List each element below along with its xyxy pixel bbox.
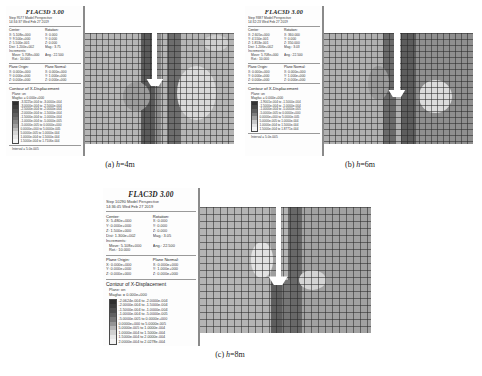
increments-block: Move: 5.708e+000 Rot.: 10.000 Ang.: 22.5… xyxy=(9,53,81,61)
legend-label-9: 2.0000e-004 to 2.0278e-004 xyxy=(119,340,168,345)
increments-block: Move: 5.108e+000 Rot.: 10.000 Ang.: 22.5… xyxy=(106,244,196,254)
plane-normal-z: Z: 0.000e+000 xyxy=(45,78,81,82)
divider xyxy=(9,63,81,64)
plane-block: Plane Origin: X: 0.000e+000 Y: 0.000e+00… xyxy=(248,65,320,82)
caption-label: (c) xyxy=(215,350,224,359)
caption-value: =8m xyxy=(230,350,245,359)
caption-value: =4m xyxy=(120,160,135,169)
plane-normal-z: Z: 0.000e+000 xyxy=(284,78,320,82)
contour-legend-c: -2.0624e-004 to -2.0000e-004-2.0000e-004… xyxy=(106,299,196,345)
excavation-slot xyxy=(276,207,282,280)
divider xyxy=(9,26,81,27)
mag-value: Mag.: 3.03 xyxy=(284,45,320,49)
flac3d-brand: FLAC3D 3.00 xyxy=(106,190,196,200)
excavation-slot xyxy=(394,33,399,93)
plane-block: Plane Origin: X: 0.000e+000 Y: 0.000e+00… xyxy=(9,65,81,82)
rot-value: Rot.: 10.000 xyxy=(248,57,284,61)
legend-swatches xyxy=(109,299,117,345)
caption-panel-a: (a) h=4m xyxy=(40,160,200,169)
legend-swatch-9 xyxy=(110,339,116,343)
divider xyxy=(106,279,196,280)
legend-interval: Interval = 5.0e-005 xyxy=(248,133,320,139)
center-rotation-block: Center: X: 2.605e+000 Y: 4.550e-001 Z: 1… xyxy=(248,28,320,49)
plot-area-b xyxy=(323,6,473,156)
plot-area-a xyxy=(84,6,234,156)
timestamp-line: 14:36:45 Wed Feb 27 2019 xyxy=(106,205,196,210)
plane-origin-z: Z: 0.000e+000 xyxy=(106,272,153,277)
mag-value: Mag.: 3.05 xyxy=(153,234,196,239)
divider xyxy=(9,83,81,84)
legend-swatch-7 xyxy=(252,127,257,131)
caption-label: (b) xyxy=(345,160,354,169)
ang-value: Ang.: 22.500 xyxy=(284,53,320,57)
info-sidebar-b: FLAC3D 3.00 Step 9387 Model Perspective … xyxy=(245,6,323,156)
caption-value: =6m xyxy=(360,160,375,169)
plane-origin-z: Z: 0.000e+000 xyxy=(9,78,45,82)
mesh-model-b xyxy=(323,33,473,144)
legend-swatches xyxy=(12,101,19,144)
rot-value: Rot.: 10.000 xyxy=(106,248,153,253)
rot-value: Rot.: 10.000 xyxy=(9,57,45,61)
timestamp-line: 14:34:37 Wed Feb 27 2019 xyxy=(9,20,81,24)
center-rotation-block: Center: X: 5.480e+000 Y: 0.000e+000 Z: 1… xyxy=(106,214,196,239)
info-sidebar-c: FLAC3D 3.00 Step 10290 Model Perspective… xyxy=(103,188,199,346)
legend-labels: -2.0624e-004 to -2.0000e-004-2.0000e-004… xyxy=(117,299,168,345)
flac3d-panel-c: FLAC3D 3.00 Step 10290 Model Perspective… xyxy=(103,188,371,346)
divider xyxy=(248,83,320,84)
flac3d-brand: FLAC3D 3.00 xyxy=(9,8,81,16)
figure-sheet: FLAC3D 3.00 Step 9577 Model Perspective … xyxy=(0,0,482,376)
magfac-value: Magfac = 0.000e+000 xyxy=(106,293,196,298)
mesh-grid xyxy=(84,33,234,144)
plane-normal-z: Z: 0.000e+000 xyxy=(153,272,196,277)
legend-label-7: 1.5000e-004 to 1.8771e-004 xyxy=(260,128,301,132)
mesh-model-c xyxy=(199,207,371,333)
divider xyxy=(106,255,196,256)
ang-value: Ang.: 22.500 xyxy=(153,244,196,249)
divider xyxy=(248,63,320,64)
legend-interval: Interval = 5.0e-005 xyxy=(9,145,81,151)
caption-panel-b: (b) h=6m xyxy=(280,160,440,169)
flac3d-panel-b: FLAC3D 3.00 Step 9387 Model Perspective … xyxy=(245,6,473,156)
caption-label: (a) xyxy=(105,160,114,169)
flac3d-brand: FLAC3D 3.00 xyxy=(248,8,320,16)
mesh-model-a xyxy=(84,33,234,144)
legend-label-10: 1.5000e-004 to 1.7106e-004 xyxy=(21,140,62,144)
info-sidebar-a: FLAC3D 3.00 Step 9577 Model Perspective … xyxy=(6,6,84,156)
legend-swatches xyxy=(251,101,258,132)
legend-swatch-10 xyxy=(13,139,18,143)
divider xyxy=(106,211,196,212)
flac3d-panel-a: FLAC3D 3.00 Step 9577 Model Perspective … xyxy=(6,6,234,156)
divider xyxy=(248,26,320,27)
excavation-slot xyxy=(152,33,157,82)
mag-value: Mag.: 3.75 xyxy=(45,45,81,49)
timestamp-line: 14:32:23 Wed Feb 27 2019 xyxy=(248,20,320,24)
caption-panel-c: (c) h=8m xyxy=(150,350,310,359)
center-rotation-block: Center: X: 5.108e+000 Y: 9.500e+000 Z: 5… xyxy=(9,28,81,49)
legend-labels: -1.9001e-004 to -1.5000e-004-1.5000e-004… xyxy=(258,101,301,132)
legend-labels: -3.3225e-004 to -3.0000e-004-3.0000e-004… xyxy=(19,101,62,144)
plot-area-c xyxy=(199,188,371,346)
contour-legend-b: -1.9001e-004 to -1.5000e-004-1.5000e-004… xyxy=(248,101,320,132)
ang-value: Ang.: 22.500 xyxy=(45,53,81,57)
plane-block: Plane Origin: X: 0.000e+000 Y: 0.000e+00… xyxy=(106,257,196,277)
increments-block: Move: 5.708e+000 Rot.: 10.000 Ang.: 22.5… xyxy=(248,53,320,61)
contour-title: Contour of X-Displacement xyxy=(106,281,196,288)
contour-legend-a: -3.3225e-004 to -3.0000e-004-3.0000e-004… xyxy=(9,101,81,144)
plane-origin-z: Z: 0.000e+000 xyxy=(248,78,284,82)
mesh-grid xyxy=(199,207,371,333)
